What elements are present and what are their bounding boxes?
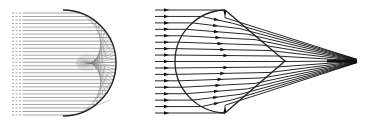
arrowhead-icon: [164, 111, 169, 115]
arrowhead-icon: [218, 42, 223, 45]
arrowhead-icon: [220, 48, 225, 51]
arrowhead-icon: [213, 96, 218, 99]
arrowhead-icon: [215, 36, 220, 39]
arrowhead-icon: [215, 84, 220, 87]
arrowhead-icon: [164, 105, 169, 109]
arrowhead-icon: [164, 73, 169, 77]
ray: [155, 62, 357, 89]
arrowhead-icon: [164, 85, 169, 89]
arrowhead-icon: [164, 15, 169, 19]
arrowhead-icon: [164, 60, 169, 64]
arrowhead-icon: [220, 72, 225, 75]
arrowhead-icon: [213, 24, 218, 27]
arrowhead-icon: [164, 53, 169, 57]
arrowhead-icon: [164, 8, 169, 12]
arrowhead-icon: [164, 47, 169, 51]
ray: [155, 60, 357, 64]
optics-figure: [0, 0, 367, 123]
arrowhead-icon: [218, 78, 223, 81]
arrowhead-icon: [223, 54, 228, 57]
light-rays: [155, 8, 357, 115]
lens-caustic-diagram: [0, 0, 367, 123]
arrowhead-icon: [223, 66, 228, 69]
arrowhead-icon: [164, 40, 169, 44]
arrowhead-icon: [164, 66, 169, 70]
arrowhead-icon: [164, 34, 169, 38]
arrowhead-icon: [164, 98, 169, 102]
arrowhead-icon: [164, 92, 169, 96]
arrowhead-icon: [164, 28, 169, 32]
arrowhead-icon: [164, 21, 169, 25]
arrowhead-icon: [164, 79, 169, 83]
